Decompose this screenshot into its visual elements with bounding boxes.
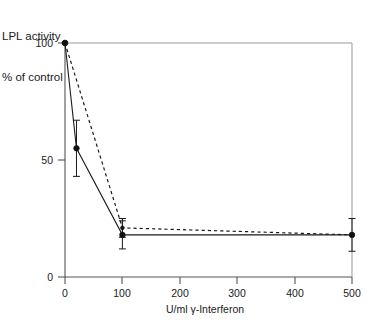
plot-frame	[65, 43, 352, 277]
data-point-marker	[120, 232, 126, 238]
y-tick-label-0: 0	[47, 271, 53, 283]
series-dashed-line	[65, 43, 352, 235]
series-solid-markers	[62, 40, 355, 237]
chart-plot: 100 50 0 0 100 200 300 400 500 U/ml γ-In…	[0, 0, 367, 325]
x-tick-label-400: 400	[286, 287, 304, 299]
x-axis-ticks	[65, 277, 352, 284]
series-solid-line	[65, 43, 352, 235]
y-tick-label-100: 100	[35, 37, 53, 49]
data-point-marker	[121, 226, 125, 230]
series-solid-path	[65, 43, 352, 235]
x-tick-label-0: 0	[62, 287, 68, 299]
series-dashed-markers	[62, 40, 354, 237]
series-solid-errorbars	[73, 120, 356, 251]
data-point-marker	[349, 232, 355, 238]
y-tick-label-50: 50	[41, 154, 53, 166]
x-axis-caption: U/ml γ-Interferon	[166, 303, 244, 315]
x-tick-label-100: 100	[113, 287, 131, 299]
data-point-marker	[62, 40, 68, 46]
y-axis-ticks	[58, 43, 65, 277]
x-tick-label-300: 300	[228, 287, 246, 299]
x-tick-label-200: 200	[171, 287, 189, 299]
x-tick-label-500: 500	[343, 287, 361, 299]
data-point-marker	[74, 146, 80, 152]
series-dashed-path	[65, 43, 352, 235]
